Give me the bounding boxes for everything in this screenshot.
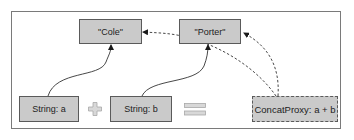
node-porter-label: "Porter" [195,27,226,37]
node-cole: "Cole" [79,19,142,44]
node-porter: "Porter" [179,19,241,44]
node-concat-proxy-label: ConcatProxy: a + b [254,104,335,115]
node-string-a: String: a [19,96,79,122]
plus-icon [88,102,102,116]
node-string-b: String: b [110,96,172,122]
equals-icon [184,103,206,116]
node-string-b-label: String: b [124,104,158,114]
node-concat-proxy: ConcatProxy: a + b [252,96,338,122]
node-cole-label: "Cole" [98,27,123,37]
node-string-a-label: String: a [32,104,66,114]
